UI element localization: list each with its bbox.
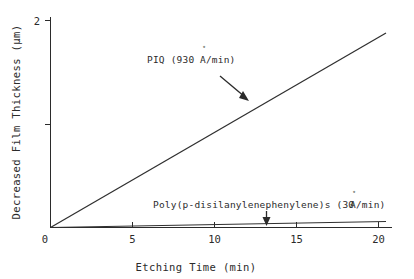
- poly-label-prefix: Poly(p-disilanylenephenylene)s (30: [153, 199, 354, 210]
- line-chart-plot: 2 0 5 10 15 20 Etching Time (min) Decrea…: [0, 0, 414, 279]
- poly-angstrom-ring-icon: ˚: [352, 190, 356, 199]
- y-tick-label-2: 2: [34, 15, 40, 27]
- y-axis-title: Decreased Film Thickness (μm): [10, 25, 22, 220]
- y-tick-label-0: 0: [42, 233, 48, 245]
- x-tick-label-10: 10: [208, 233, 221, 245]
- x-axis-title: Etching Time (min): [136, 261, 257, 273]
- chart-figure: 2 0 5 10 15 20 Etching Time (min) Decrea…: [0, 0, 414, 279]
- x-tick-label-20: 20: [372, 233, 385, 245]
- piq-label-prefix: PIQ (930: [147, 54, 194, 65]
- x-tick-label-15: 15: [290, 233, 303, 245]
- poly-label-unit: A/min): [350, 199, 386, 210]
- piq-angstrom-ring-icon: ˚: [202, 45, 206, 54]
- piq-label-unit: A/min): [200, 54, 236, 65]
- plot-background: [0, 0, 414, 279]
- x-tick-label-5: 5: [129, 233, 135, 245]
